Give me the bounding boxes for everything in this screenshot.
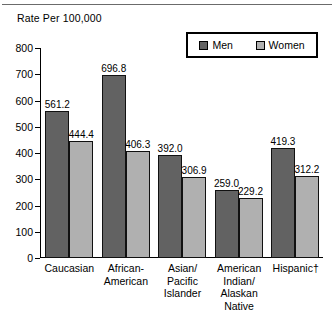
x-category-label-line: African- — [98, 262, 155, 275]
bar-value-label: 406.3 — [125, 140, 150, 150]
y-tick-label: 500 — [15, 122, 33, 133]
x-category-label: AmericanIndian/Alaskan Native — [211, 262, 268, 312]
y-axis-title: Rate Per 100,000 — [17, 12, 102, 24]
y-tick-mark — [35, 48, 40, 49]
y-tick-mark — [35, 258, 40, 259]
x-category-label: African-American — [98, 262, 155, 312]
bar-group: 419.3312.2 — [267, 48, 323, 258]
y-tick-mark — [35, 101, 40, 102]
bar-men[interactable]: 419.3 — [271, 148, 295, 258]
y-tick-label: 200 — [15, 200, 33, 211]
y-tick-mark — [35, 74, 40, 75]
bar-value-label: 392.0 — [158, 144, 183, 154]
y-tick-mark — [35, 179, 40, 180]
y-tick-mark — [35, 127, 40, 128]
top-divider-rule — [2, 4, 332, 5]
bar-value-label: 561.2 — [45, 100, 70, 110]
x-category-label-line: Indian/ — [211, 275, 268, 288]
y-tick-label: 300 — [15, 174, 33, 185]
y-tick-mark — [35, 153, 40, 154]
bar-women[interactable]: 312.2 — [295, 176, 319, 258]
x-category-label-line: Islander — [154, 287, 211, 300]
y-tick-mark — [35, 232, 40, 233]
x-category-label-line: Asian/ — [154, 262, 211, 275]
bar-women[interactable]: 444.4 — [69, 141, 93, 258]
bar-men[interactable]: 259.0 — [215, 190, 239, 258]
y-tick-mark — [35, 206, 40, 207]
bar-group: 392.0306.9 — [154, 48, 210, 258]
x-axis-category-labels: CaucasianAfrican-AmericanAsian/PacificIs… — [41, 262, 324, 312]
x-category-label: Caucasian — [41, 262, 98, 312]
x-category-label-line: Alaskan Native — [211, 287, 268, 312]
bar-value-label: 444.4 — [69, 130, 94, 140]
x-category-label-line: Caucasian — [41, 262, 98, 275]
bar-group: 696.8406.3 — [97, 48, 153, 258]
y-tick-label: 100 — [15, 227, 33, 238]
y-tick-label: 800 — [15, 43, 33, 54]
plot-area: 0100200300400500600700800 561.2444.4696.… — [40, 48, 323, 258]
x-category-label: Asian/PacificIslander — [154, 262, 211, 312]
bar-women[interactable]: 306.9 — [182, 177, 206, 258]
bar-value-label: 696.8 — [101, 64, 126, 74]
y-tick-label: 600 — [15, 95, 33, 106]
bar-men[interactable]: 561.2 — [45, 111, 69, 258]
x-category-label-line: Hispanic† — [267, 262, 324, 275]
bar-women[interactable]: 406.3 — [126, 151, 150, 258]
y-tick-label: 400 — [15, 148, 33, 159]
bar-group: 561.2444.4 — [41, 48, 97, 258]
x-category-label-line: American — [211, 262, 268, 275]
bar-value-label: 312.2 — [294, 165, 319, 175]
bar-men[interactable]: 696.8 — [102, 75, 126, 258]
y-tick-label: 700 — [15, 69, 33, 80]
bar-groups: 561.2444.4696.8406.3392.0306.9259.0229.2… — [41, 48, 323, 258]
y-tick-label: 0 — [27, 253, 33, 264]
bar-value-label: 229.2 — [238, 187, 263, 197]
bar-men[interactable]: 392.0 — [158, 155, 182, 258]
bar-value-label: 306.9 — [182, 166, 207, 176]
bar-value-label: 259.0 — [214, 179, 239, 189]
bar-women[interactable]: 229.2 — [239, 198, 263, 258]
x-category-label-line: American — [98, 275, 155, 288]
bar-group: 259.0229.2 — [210, 48, 266, 258]
bar-value-label: 419.3 — [270, 137, 295, 147]
x-category-label: Hispanic† — [267, 262, 324, 312]
x-category-label-line: Pacific — [154, 275, 211, 288]
